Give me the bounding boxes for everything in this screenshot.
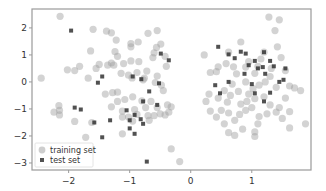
training-point bbox=[278, 54, 285, 61]
training-point bbox=[64, 66, 71, 73]
training-point bbox=[257, 55, 264, 62]
test-point bbox=[233, 56, 237, 60]
legend-training-label: training set bbox=[50, 146, 96, 155]
test-point bbox=[141, 99, 145, 103]
y-tick-label: 1 bbox=[21, 50, 27, 60]
legend: training set test set bbox=[35, 143, 96, 167]
test-point bbox=[282, 78, 286, 82]
test-point bbox=[157, 81, 161, 85]
training-point bbox=[154, 72, 161, 79]
test-point bbox=[261, 65, 265, 69]
training-point bbox=[274, 43, 281, 50]
training-point bbox=[254, 120, 261, 127]
training-point bbox=[279, 115, 286, 122]
test-point bbox=[69, 29, 73, 33]
training-point bbox=[162, 111, 169, 118]
test-point bbox=[268, 91, 272, 95]
test-point bbox=[100, 75, 104, 79]
test-point bbox=[213, 83, 217, 87]
test-point bbox=[147, 89, 151, 93]
training-point bbox=[256, 113, 263, 120]
legend-test-marker-icon bbox=[40, 158, 44, 162]
training-point bbox=[282, 95, 289, 102]
training-point bbox=[120, 60, 127, 67]
test-point bbox=[139, 77, 143, 81]
legend-test-label: test set bbox=[50, 156, 80, 165]
training-point bbox=[286, 108, 293, 115]
training-point bbox=[119, 130, 126, 137]
x-tick-label: 0 bbox=[188, 176, 194, 186]
training-point bbox=[271, 27, 278, 34]
test-point bbox=[283, 66, 287, 70]
training-point bbox=[235, 88, 242, 95]
training-point bbox=[239, 126, 246, 133]
test-point bbox=[253, 91, 257, 95]
training-point bbox=[265, 14, 272, 21]
training-point bbox=[221, 120, 228, 127]
training-point bbox=[135, 58, 142, 65]
test-point bbox=[218, 91, 222, 95]
training-point bbox=[230, 63, 237, 70]
training-point bbox=[96, 61, 103, 68]
training-point bbox=[224, 99, 231, 106]
training-point bbox=[263, 110, 270, 117]
test-point bbox=[100, 135, 104, 139]
training-point bbox=[154, 27, 161, 34]
training-point bbox=[142, 104, 149, 111]
test-point bbox=[73, 106, 77, 110]
test-point bbox=[133, 132, 137, 136]
training-point bbox=[57, 13, 64, 20]
training-point bbox=[213, 114, 220, 121]
training-point bbox=[151, 112, 158, 119]
y-tick-label: −1 bbox=[14, 104, 27, 114]
training-point bbox=[168, 103, 175, 110]
training-point bbox=[248, 104, 255, 111]
y-tick-label: −2 bbox=[14, 131, 27, 141]
training-point bbox=[90, 26, 97, 33]
test-point bbox=[216, 45, 220, 49]
training-point bbox=[119, 114, 126, 121]
training-point bbox=[135, 38, 142, 45]
test-point bbox=[250, 82, 254, 86]
training-point bbox=[243, 98, 250, 105]
test-point bbox=[131, 75, 135, 79]
y-tick-label: 0 bbox=[21, 77, 27, 87]
test-point bbox=[133, 113, 137, 117]
test-point bbox=[155, 103, 159, 107]
training-point bbox=[176, 158, 183, 165]
test-point bbox=[227, 80, 231, 84]
training-point bbox=[163, 63, 170, 70]
scatter-chart: −2−101 −3−2−1012 training set test set bbox=[0, 0, 326, 191]
training-point bbox=[276, 16, 283, 23]
test-point bbox=[243, 72, 247, 76]
training-point bbox=[218, 107, 225, 114]
training-point bbox=[109, 89, 116, 96]
test-point bbox=[125, 108, 129, 112]
training-point bbox=[201, 51, 208, 58]
test-point bbox=[263, 72, 267, 76]
training-point bbox=[82, 134, 89, 141]
training-point bbox=[237, 38, 244, 45]
training-point bbox=[233, 70, 240, 77]
test-point bbox=[277, 80, 281, 84]
training-point bbox=[114, 53, 121, 60]
training-point bbox=[38, 75, 45, 82]
test-point bbox=[108, 118, 112, 122]
training-point bbox=[302, 120, 309, 127]
training-point bbox=[118, 70, 125, 77]
training-point bbox=[147, 98, 154, 105]
training-point bbox=[215, 63, 222, 70]
test-point bbox=[145, 160, 149, 164]
training-point bbox=[267, 101, 274, 108]
y-tick-label: −3 bbox=[14, 158, 27, 168]
training-point bbox=[102, 91, 109, 98]
test-point bbox=[92, 121, 96, 125]
training-point bbox=[256, 82, 263, 89]
training-point bbox=[231, 117, 238, 124]
x-tick-label: −1 bbox=[123, 176, 136, 186]
x-tick-label: 1 bbox=[249, 176, 255, 186]
test-point bbox=[253, 59, 257, 63]
test-point bbox=[262, 50, 266, 54]
test-point bbox=[96, 81, 100, 85]
y-tick-label: 2 bbox=[21, 23, 27, 33]
